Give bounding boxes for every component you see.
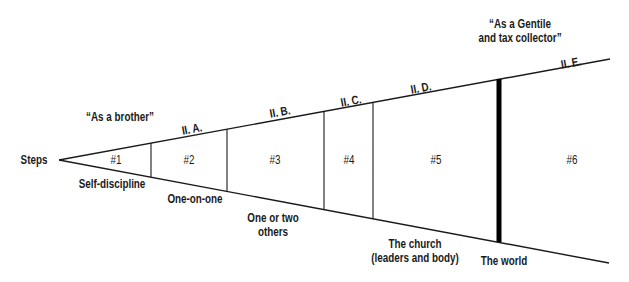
quote-as-a-brother: “As a brother” (75, 110, 165, 124)
bottom-label-church-line2: (leaders and body) (366, 251, 464, 265)
section-number-6: #6 (556, 153, 589, 167)
quote-gentile-line2: and tax collector” (463, 31, 578, 45)
section-number-5: #5 (420, 153, 453, 167)
bottom-label-one-on-one: One-on-one (158, 192, 232, 206)
bottom-label-self-discipline: Self-discipline (71, 177, 153, 191)
section-number-4: #4 (333, 153, 366, 167)
section-number-2: #2 (173, 153, 206, 167)
quote-gentile-line1: “As a Gentile (463, 17, 578, 31)
section-number-3: #3 (259, 153, 292, 167)
bottom-label-one-or-two-line2: others (236, 225, 310, 239)
steps-label: Steps (18, 153, 51, 167)
section-number-1: #1 (100, 153, 133, 167)
bottom-label-one-or-two-line1: One or two (236, 211, 310, 225)
funnel-bottom-edge (59, 160, 609, 263)
bottom-label-the-world: The world (467, 254, 541, 268)
bottom-label-church-line1: The church (366, 237, 464, 251)
